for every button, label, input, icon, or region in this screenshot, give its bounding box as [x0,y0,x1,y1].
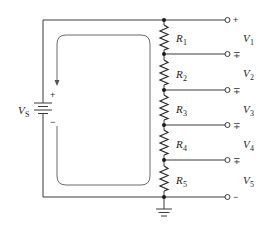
terminal-5 [225,158,230,163]
r5-subscript: 5 [183,180,187,189]
r3-label: R [175,103,183,115]
resistor-r4 [160,130,168,155]
r4-label: R [175,138,183,150]
r4-subscript: 4 [183,144,187,153]
source-minus-sign: − [50,117,55,127]
terminal-sign-6: − [233,192,238,202]
terminal-3 [225,88,230,93]
current-arrow-icon [55,80,60,86]
source-subscript: S [25,110,29,119]
resistor-r1 [160,25,168,50]
terminal-sign-4: ∓ [233,121,241,131]
terminal-sign-3: ∓ [233,86,241,96]
terminal-1 [225,18,230,23]
output-voltage-labels: V 1 V 2 V 3 V 4 V 5 [243,32,254,189]
r2-subscript: 2 [183,74,187,83]
circuit-wires [43,20,164,197]
ground-icon [156,209,172,216]
source-plus-sign: + [50,90,55,100]
terminal-6 [225,195,230,200]
r5-label: R [175,174,183,186]
battery-source: V S + − [18,90,55,127]
resistor-labels: R 1 R 2 R 3 R 4 R 5 [175,32,187,189]
resistor-r3 [160,95,168,120]
terminal-sign-5: ∓ [233,156,241,166]
resistor-r5 [160,166,168,191]
v2-subscript: 2 [250,73,254,82]
v1-subscript: 1 [250,38,254,47]
voltage-divider-diagram: V S + − R 1 R 2 R [0,0,269,236]
resistor-r2 [160,60,168,85]
terminal-sign-2: ∓ [233,50,241,60]
current-loop [55,35,151,185]
r1-label: R [175,32,183,44]
v5-subscript: 5 [250,180,254,189]
r3-subscript: 3 [183,109,187,118]
resistor-chain [160,20,168,209]
v4-subscript: 4 [250,144,254,153]
r1-subscript: 1 [183,38,187,47]
terminal-2 [225,52,230,57]
terminal-4 [225,123,230,128]
r2-label: R [175,68,183,80]
v3-subscript: 3 [250,109,254,118]
terminal-sign-1: + [233,15,238,25]
